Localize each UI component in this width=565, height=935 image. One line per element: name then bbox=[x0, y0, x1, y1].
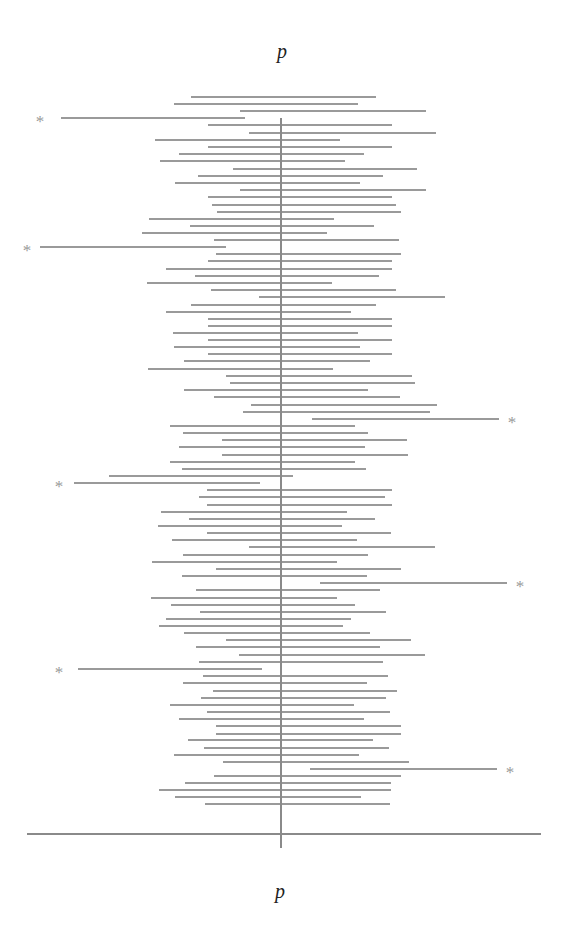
miss-asterisk-icon: * bbox=[506, 764, 515, 781]
bottom-parameter-label: p bbox=[275, 880, 285, 903]
miss-asterisk-icon: * bbox=[23, 242, 32, 259]
miss-asterisk-icon: * bbox=[508, 414, 517, 431]
miss-asterisk-icon: * bbox=[36, 113, 45, 130]
miss-asterisk-icon: * bbox=[516, 578, 525, 595]
confidence-interval-chart: p p ******* bbox=[0, 0, 565, 935]
miss-asterisk-icon: * bbox=[55, 664, 64, 681]
miss-asterisk-icon: * bbox=[55, 478, 64, 495]
interval-plot bbox=[0, 0, 565, 935]
